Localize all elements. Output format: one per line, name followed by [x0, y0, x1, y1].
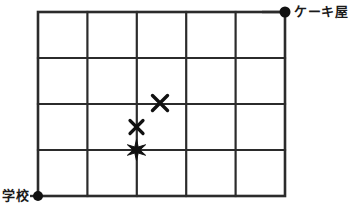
grid-svg — [0, 0, 349, 215]
label-cake-shop: ケーキ屋 — [294, 5, 348, 18]
label-school: 学校 — [2, 189, 29, 202]
grid-map-diagram: 学校 ケーキ屋 — [0, 0, 349, 215]
endpoint-dot-cake-shop — [280, 7, 291, 18]
endpoint-dot-school — [33, 191, 43, 201]
